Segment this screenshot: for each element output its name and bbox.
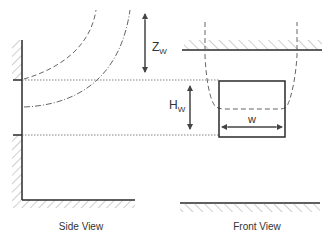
flow-curve-outer (24, 10, 130, 107)
z-dimension-label: ZW (152, 40, 167, 56)
front-view: w Front View (180, 22, 322, 232)
h-dimension-label: HW (169, 98, 186, 114)
front-view-caption: Front View (233, 221, 281, 232)
side-view-caption: Side View (59, 221, 104, 232)
flow-curve-inner (24, 10, 96, 79)
w-dimension-label: w (247, 113, 256, 125)
diagram-canvas: ZW HW Side View w Front View (0, 0, 331, 238)
floor-hatch (12, 200, 135, 208)
upper-wall-hatch (12, 40, 22, 80)
front-floor-hatch (180, 203, 320, 212)
lower-wall-hatch (12, 135, 22, 200)
